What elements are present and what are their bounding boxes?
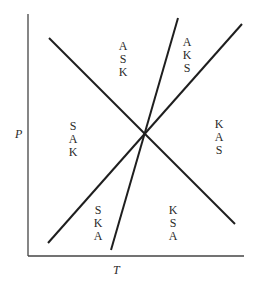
region-letter: A (91, 230, 105, 243)
region-bottom-left: S K A (91, 204, 105, 243)
region-top-right: A K S (180, 36, 194, 75)
region-letter: K (116, 66, 130, 79)
region-letter: S (180, 62, 194, 75)
region-top-center: A S K (116, 40, 130, 79)
region-left: S A K (66, 120, 80, 159)
region-letter: K (66, 146, 80, 159)
y-axis-label: P (15, 127, 22, 142)
region-right: K A S (212, 118, 226, 157)
region-bottom-right: K S A (166, 204, 180, 243)
x-axis-label: T (113, 263, 120, 278)
region-letter: S (212, 144, 226, 157)
region-letter: A (166, 230, 180, 243)
